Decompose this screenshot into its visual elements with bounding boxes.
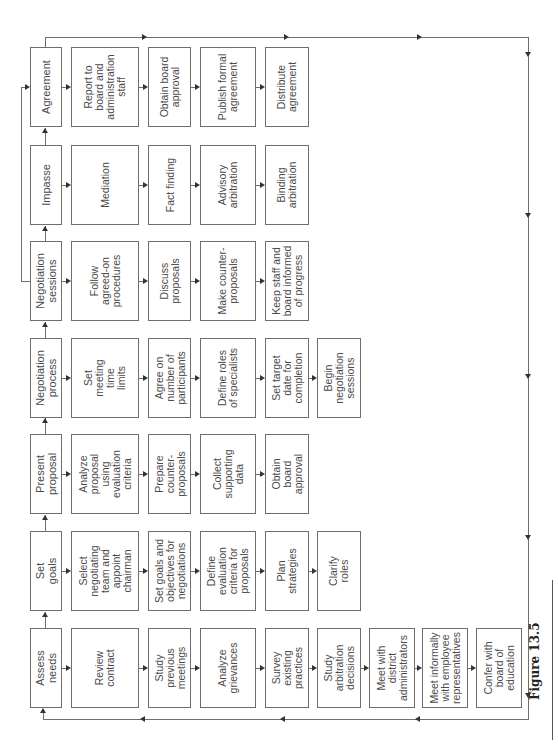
arrow-right-icon (417, 34, 422, 40)
arrow-right-icon (195, 278, 200, 284)
arrow-right-icon (312, 568, 317, 574)
step-label: Meet with district administrators (376, 635, 409, 701)
step-box: Analyze proposal using evaluation criter… (71, 434, 139, 514)
step-label: Collect supporting data (212, 449, 245, 498)
step-box: Make counter- proposals (200, 241, 256, 321)
step-box: Meet with district administrators (369, 628, 415, 708)
step-label: Fact finding (164, 158, 175, 212)
arrow-up-icon (42, 322, 48, 327)
arrow-right-icon (25, 84, 30, 90)
step-box: Collect supporting data (200, 434, 256, 514)
step-label: Agree on number of participants (153, 351, 186, 405)
figure-caption: Figure 13.5 (528, 622, 542, 700)
step-box: Plan strategies (265, 531, 309, 611)
step-label: Prepare counter- proposals (153, 451, 186, 497)
arrow-right-icon (195, 182, 200, 188)
step-box: Study arbitration decisions (317, 628, 361, 708)
step-box: Obtain board approval (148, 47, 191, 127)
arrow-down-icon (525, 374, 531, 379)
step-label: Study arbitration decisions (323, 645, 356, 692)
stage-label: Negotiation process (34, 350, 58, 406)
step-label: Review contract (94, 649, 116, 686)
step-box: Select negotiating team and appoint chai… (71, 531, 139, 611)
step-box: Report to board and administration staff (71, 47, 139, 127)
step-label: Publish formal agreement (217, 54, 239, 121)
stage-label: Present proposal (34, 453, 58, 495)
step-label: Define evaluation criteria for proposals (206, 547, 250, 595)
step-label: Distribute agreement (276, 62, 298, 112)
arrow-down-icon (525, 535, 531, 540)
arrow-right-icon (312, 375, 317, 381)
step-box: Study previous meetings (148, 628, 191, 708)
arrow-right-icon (284, 34, 289, 40)
arrow-right-icon (143, 665, 148, 671)
step-box: Distribute agreement (265, 47, 309, 127)
arrow-up-icon (42, 226, 48, 231)
step-label: Select negotiating team and appoint chai… (78, 545, 133, 596)
arrow-up-icon (42, 515, 48, 520)
arrow-right-icon (143, 471, 148, 477)
arrow-right-icon (142, 34, 147, 40)
step-box: Obtain board approval (265, 434, 309, 514)
arrow-right-icon (66, 278, 71, 284)
arrow-left-icon (280, 716, 285, 722)
step-box: Mediation (71, 145, 139, 225)
step-box: Follow agreed-on procedures (71, 241, 139, 321)
arrow-right-icon (66, 568, 71, 574)
step-label: Study previous meetings (153, 647, 186, 690)
step-box: Set meeting time limits (71, 338, 139, 418)
arrow-left-icon (140, 716, 145, 722)
step-label: Follow agreed-on procedures (89, 255, 122, 308)
stage-agreement: Agreement (30, 47, 62, 127)
stage-assess-needs: Assess needs (30, 628, 62, 708)
step-label: Mediation (100, 162, 111, 208)
step-box: Meet informally with employee representa… (422, 628, 468, 708)
arrow-right-icon (195, 665, 200, 671)
arrow-right-icon (195, 84, 200, 90)
arrow-right-icon (195, 568, 200, 574)
step-box: Survey existing practices (265, 628, 309, 708)
step-label: Advisory arbitration (217, 162, 239, 209)
stage-label: Impasse (40, 164, 52, 206)
arrow-up-icon (42, 612, 48, 617)
step-box: Define evaluation criteria for proposals (200, 531, 256, 611)
step-label: Survey existing practices (271, 647, 304, 689)
arrow-right-icon (260, 665, 265, 671)
stage-negotiation-process: Negotiation process (30, 338, 62, 418)
step-box: Analyze grievances (200, 628, 256, 708)
step-box: Prepare counter- proposals (148, 434, 191, 514)
stage-label: Negotiation sessions (34, 253, 58, 309)
stage-label: Set goals (34, 558, 58, 584)
arrow-down-icon (525, 213, 531, 218)
arrow-right-icon (66, 84, 71, 90)
arrow-right-icon (260, 471, 265, 477)
arrow-up-icon (40, 708, 46, 713)
arrow-right-icon (364, 665, 369, 671)
step-box: Discuss proposals (148, 241, 191, 321)
step-box: Advisory arbitration (200, 145, 256, 225)
step-label: Binding arbitration (276, 162, 298, 209)
arrow-right-icon (143, 568, 148, 574)
arrow-right-icon (260, 182, 265, 188)
step-box: Clarify roles (317, 531, 361, 611)
step-box: Set target date for completion (265, 338, 309, 418)
stage-present-proposal: Present proposal (30, 434, 62, 514)
step-label: Set goals and objectives for negotiation… (153, 539, 186, 603)
caption-divider (552, 580, 553, 740)
arrow-right-icon (417, 665, 422, 671)
arrow-right-icon (143, 278, 148, 284)
arrow-right-icon (195, 471, 200, 477)
arrow-down-icon (525, 52, 531, 57)
arrow-right-icon (143, 84, 148, 90)
stage-negotiation-sessions: Negotiation sessions (30, 241, 62, 321)
stage-set-goals: Set goals (30, 531, 62, 611)
step-box: Publish formal agreement (200, 47, 256, 127)
arrow-right-icon (66, 182, 71, 188)
step-label: Begin negotiation sessions (323, 352, 356, 403)
arrow-right-icon (66, 665, 71, 671)
step-label: Obtain board approval (271, 454, 304, 494)
step-label: Discuss proposals (159, 258, 181, 304)
arrow-right-icon (66, 375, 71, 381)
step-box: Binding arbitration (265, 145, 309, 225)
arrow-right-icon (195, 375, 200, 381)
